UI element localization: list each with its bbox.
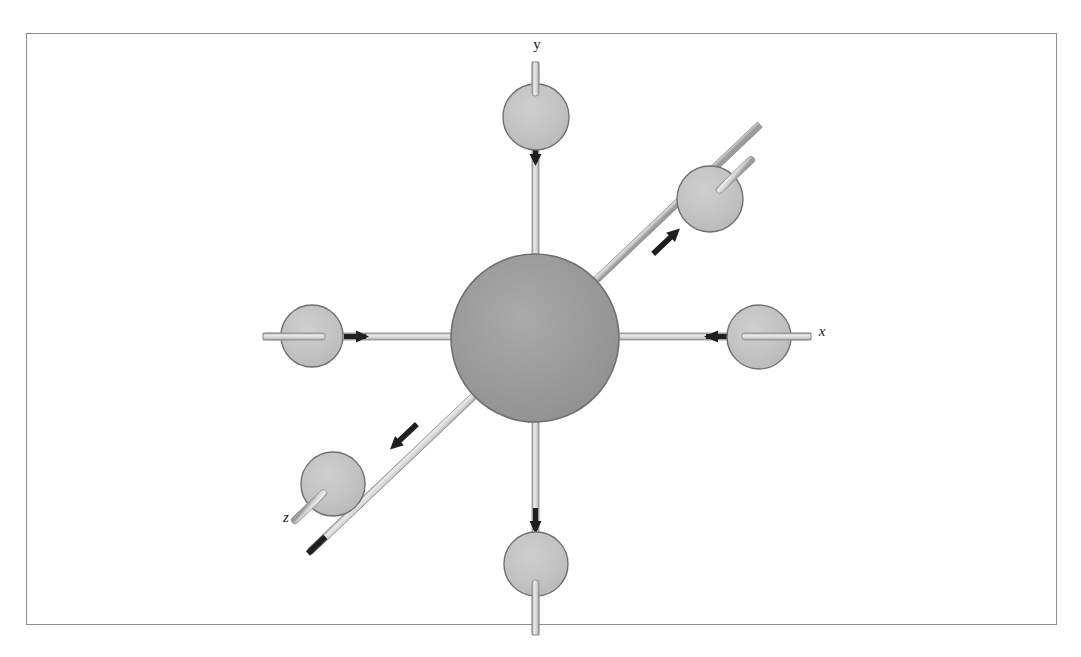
rod-stub-bottom [532,580,539,635]
rod-stub-right [742,333,811,340]
axis-label-z: z [282,509,289,525]
arrow-left-bond [344,331,369,343]
axis-label-y: y [533,36,541,52]
octahedral-diagram: y x z [0,0,1081,657]
rod-stub-top [532,62,539,96]
axis-label-x: x [818,323,826,339]
rod-stub-left [263,333,325,340]
arrow-right-bond [704,331,728,343]
arrow-bottom-bond [530,508,542,534]
figure-root: y x z [0,0,1081,657]
central-sphere [451,254,619,422]
